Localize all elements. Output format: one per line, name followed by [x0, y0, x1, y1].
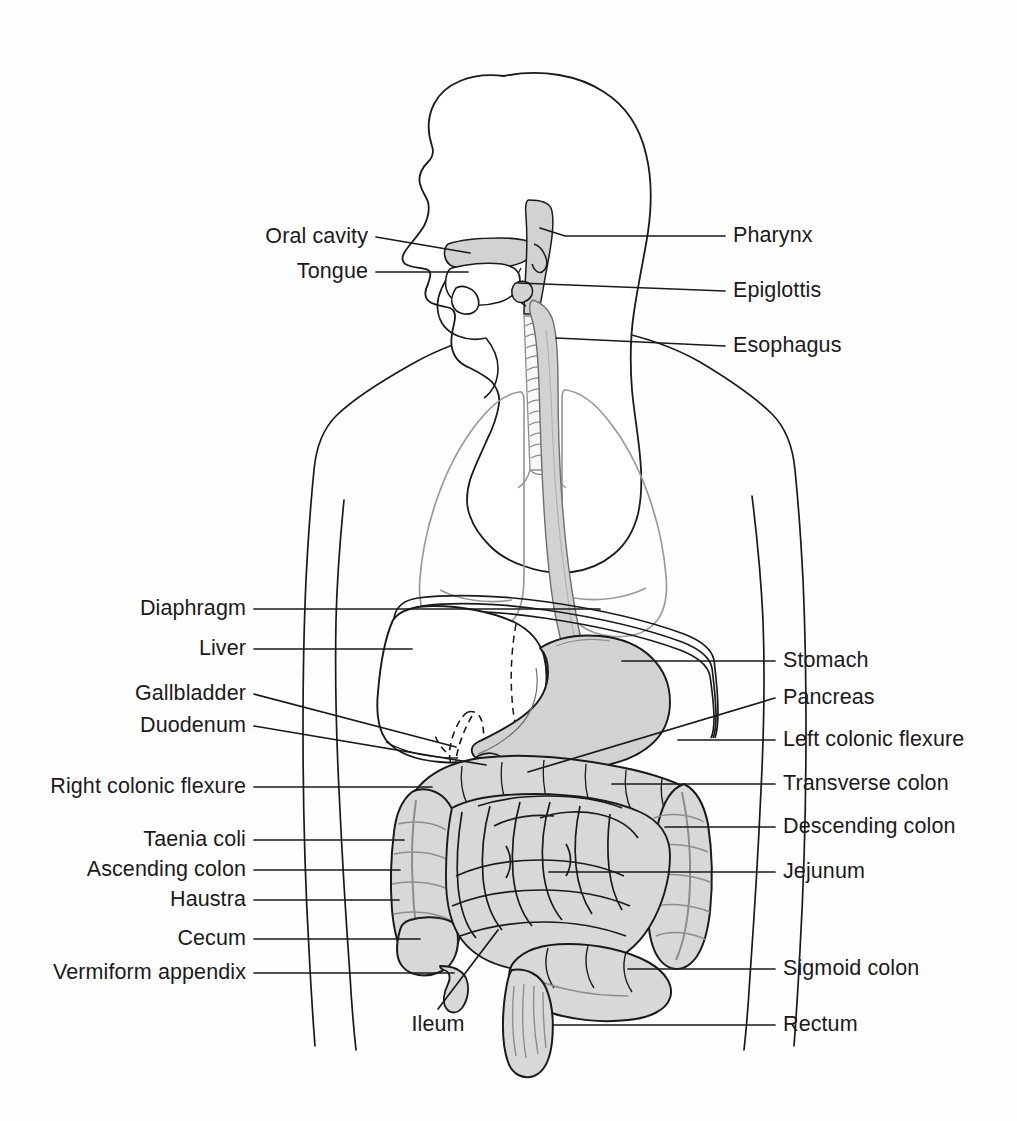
label-gallbladder: Gallbladder: [135, 683, 246, 705]
label-stomach: Stomach: [783, 650, 869, 672]
digestive-system-illustration: [0, 0, 1017, 1121]
label-pharynx: Pharynx: [733, 225, 813, 247]
label-diaphragm: Diaphragm: [140, 598, 246, 620]
epiglottis: [512, 281, 533, 302]
label-duodenum: Duodenum: [140, 715, 246, 737]
label-jejunum: Jejunum: [783, 861, 865, 883]
label-left-colonic-flexure: Left colonic flexure: [783, 729, 964, 751]
label-tongue: Tongue: [297, 261, 368, 283]
label-descending-colon: Descending colon: [783, 816, 956, 838]
anatomy-figure: Oral cavityTongueDiaphragmLiverGallbladd…: [0, 0, 1017, 1121]
label-transverse-colon: Transverse colon: [783, 773, 949, 795]
label-liver: Liver: [199, 638, 246, 660]
label-taenia-coli: Taenia coli: [143, 829, 246, 851]
label-oral-cavity: Oral cavity: [265, 226, 368, 248]
label-ileum: Ileum: [411, 1014, 464, 1036]
label-epiglottis: Epiglottis: [733, 280, 821, 302]
label-haustra: Haustra: [170, 889, 246, 911]
rectum: [503, 970, 553, 1078]
label-cecum: Cecum: [177, 928, 246, 950]
label-rectum: Rectum: [783, 1014, 858, 1036]
label-esophagus: Esophagus: [733, 335, 841, 357]
label-pancreas: Pancreas: [783, 687, 875, 709]
label-ascending-colon: Ascending colon: [87, 859, 246, 881]
label-vermiform-appendix: Vermiform appendix: [53, 962, 246, 984]
label-right-colonic-flexure: Right colonic flexure: [50, 776, 246, 798]
label-sigmoid-colon: Sigmoid colon: [783, 958, 919, 980]
